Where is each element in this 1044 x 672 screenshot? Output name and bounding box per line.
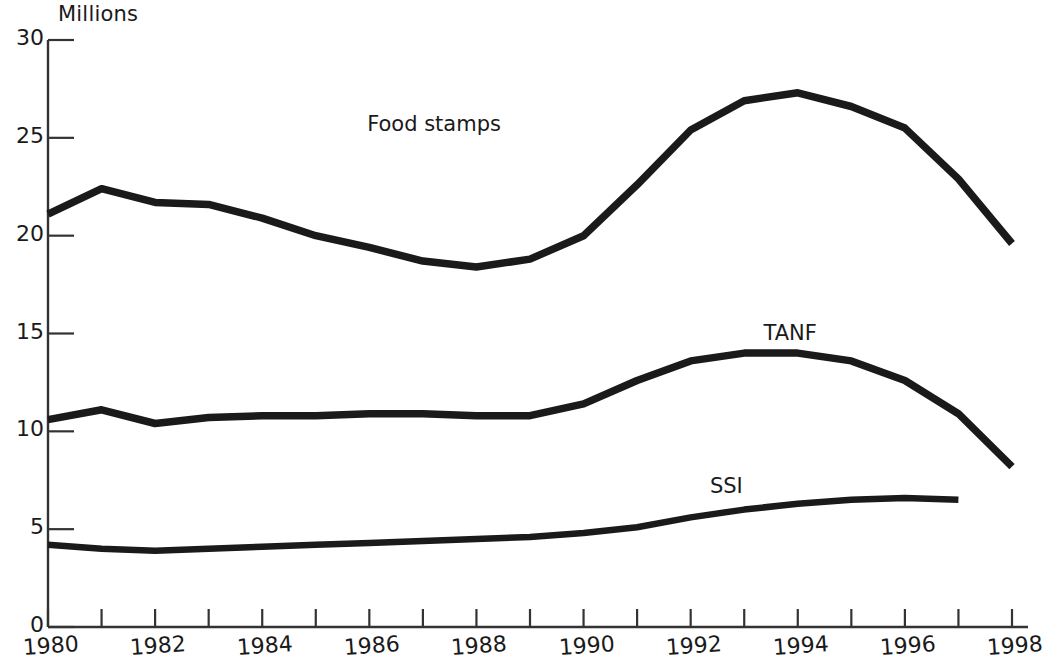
y-tick-label-25: 25 bbox=[0, 123, 44, 148]
x-tick-label-1988: 1988 bbox=[450, 631, 508, 660]
x-tick-label-1980: 1980 bbox=[22, 631, 80, 660]
series-line-food-stamps bbox=[48, 93, 1012, 267]
x-tick-label-1986: 1986 bbox=[343, 631, 401, 660]
x-tick-label-1998: 1998 bbox=[986, 631, 1044, 660]
y-axis-unit-label: Millions bbox=[58, 2, 138, 26]
x-tick-label-1990: 1990 bbox=[558, 631, 616, 660]
y-tick-label-30: 30 bbox=[0, 25, 44, 50]
x-axis-ticks bbox=[48, 609, 1012, 627]
x-tick-label-1992: 1992 bbox=[665, 631, 723, 660]
series-line-ssi bbox=[48, 498, 958, 551]
x-tick-label-1984: 1984 bbox=[236, 631, 294, 660]
x-tick-label-1982: 1982 bbox=[129, 631, 187, 660]
y-tick-label-20: 20 bbox=[0, 221, 44, 246]
x-tick-label-1994: 1994 bbox=[772, 631, 830, 660]
series-line-tanf bbox=[48, 353, 1012, 467]
series-label-tanf: TANF bbox=[763, 321, 816, 345]
chart-plot-area bbox=[0, 0, 1044, 672]
y-tick-label-5: 5 bbox=[0, 514, 44, 539]
y-tick-label-15: 15 bbox=[0, 319, 44, 344]
series-label-ssi: SSI bbox=[710, 474, 743, 498]
x-tick-label-1996: 1996 bbox=[879, 631, 937, 660]
y-tick-label-10: 10 bbox=[0, 416, 44, 441]
line-chart: Millions 051015202530 198019821984198619… bbox=[0, 0, 1044, 672]
series-label-food-stamps: Food stamps bbox=[367, 112, 501, 136]
y-axis-ticks bbox=[48, 40, 74, 627]
